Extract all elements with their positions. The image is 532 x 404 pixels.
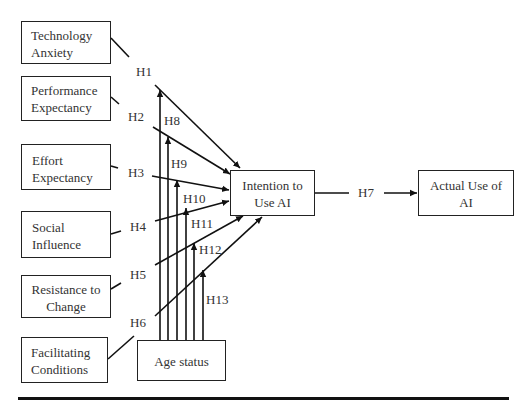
- node-label-line: Expectancy: [31, 99, 110, 116]
- node-label-line: Anxiety: [31, 44, 110, 61]
- node-label-line: Expectancy: [32, 169, 110, 186]
- node-performance-expectancy: Performance Expectancy: [21, 76, 111, 121]
- hypothesis-label-h11: H11: [191, 217, 213, 231]
- hypothesis-label-h12: H12: [199, 243, 221, 257]
- hypothesis-label-h3: H3: [128, 166, 144, 180]
- node-label-line: Social: [32, 219, 110, 236]
- node-effort-expectancy: Effort Expectancy: [21, 144, 111, 190]
- node-actual-use-of-ai: Actual Use of AI: [418, 170, 514, 216]
- node-facilitating-conditions: Facilitating Conditions: [21, 337, 108, 383]
- node-label-line: Facilitating: [31, 344, 107, 361]
- node-label-line: Influence: [32, 236, 110, 253]
- hypothesis-label-h9: H9: [171, 157, 187, 171]
- node-technology-anxiety: Technology Anxiety: [21, 21, 111, 64]
- hypothesis-label-h5: H5: [130, 268, 146, 282]
- hypothesis-label-h6: H6: [130, 316, 146, 330]
- node-resistance-to-change: Resistance to Change: [21, 275, 111, 318]
- bottom-rule: [18, 397, 509, 400]
- node-label: Age status: [138, 353, 225, 370]
- hypothesis-label-h7: H7: [358, 186, 374, 200]
- node-age-status: Age status: [137, 340, 226, 381]
- node-label-line: Technology: [31, 27, 110, 44]
- node-social-influence: Social Influence: [21, 211, 111, 258]
- node-label-line: AI: [419, 194, 513, 211]
- hypothesis-label-h2: H2: [128, 110, 144, 124]
- hypothesis-label-h10: H10: [183, 192, 205, 206]
- hypothesis-label-h4: H4: [130, 220, 146, 234]
- node-label-line: Conditions: [31, 361, 107, 378]
- node-intention-to-use-ai: Intention to Use AI: [230, 170, 315, 216]
- node-label-line: Actual Use of: [419, 177, 513, 194]
- node-label-line: Effort: [32, 152, 110, 169]
- hypothesis-label-h1: H1: [136, 65, 152, 79]
- node-label-line: Performance: [31, 82, 110, 99]
- node-label-line: Change: [22, 298, 110, 315]
- hypothesis-label-h13: H13: [206, 293, 228, 307]
- node-label-line: Intention to: [231, 177, 314, 194]
- node-label-line: Resistance to: [22, 281, 110, 298]
- hypothesis-label-h8: H8: [164, 114, 180, 128]
- node-label-line: Use AI: [231, 194, 314, 211]
